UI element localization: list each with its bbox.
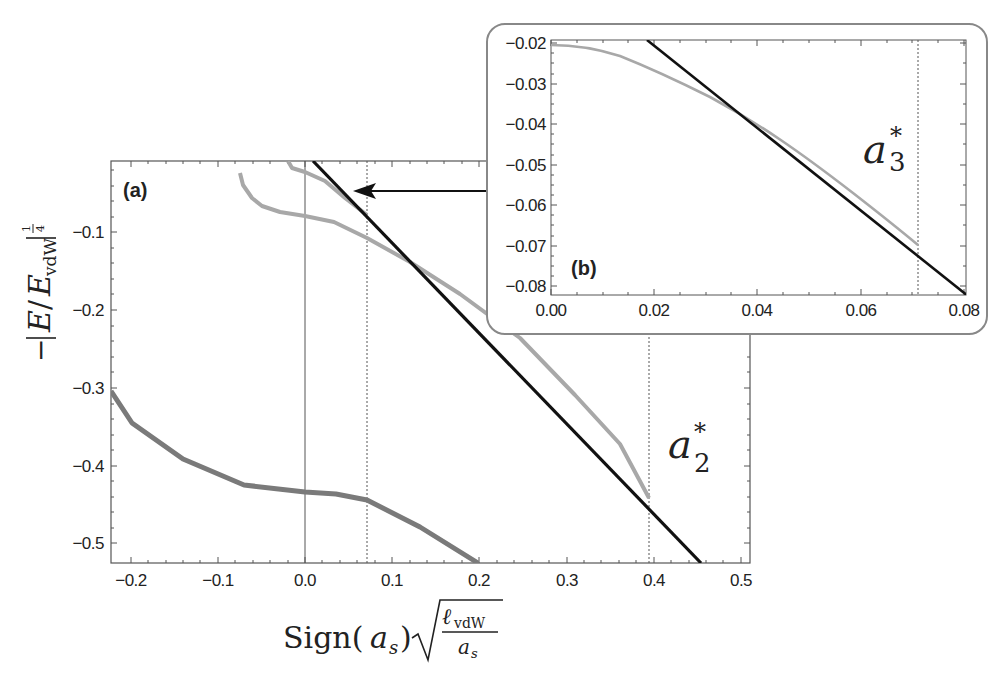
svg-text:−0.3: −0.3 <box>72 379 104 398</box>
y-axis-title: − E / E vdW 1 4 <box>20 224 60 362</box>
a3-star-label: a * 3 <box>863 122 906 177</box>
a2-star-label: a * 2 <box>668 418 711 478</box>
svg-text:vdW: vdW <box>40 238 60 277</box>
svg-text:0.4: 0.4 <box>643 571 665 590</box>
svg-text:4: 4 <box>34 225 47 232</box>
inset-outer-frame <box>487 24 987 334</box>
svg-text:*: * <box>694 418 706 446</box>
figure: (a) a * 2 −0.2 −0.1 0.0 0.1 0.2 0.3 0.4 … <box>0 0 999 679</box>
svg-text:E: E <box>22 274 57 297</box>
svg-text:0.5: 0.5 <box>730 571 752 590</box>
svg-text:−0.03: −0.03 <box>505 75 546 94</box>
svg-text:E: E <box>22 310 57 333</box>
svg-text:−0.1: −0.1 <box>72 223 104 242</box>
svg-text:−0.08: −0.08 <box>505 277 546 296</box>
svg-text:a: a <box>863 126 887 172</box>
svg-text:3: 3 <box>889 147 906 177</box>
svg-text:0.3: 0.3 <box>556 571 578 590</box>
svg-text:0.06: 0.06 <box>845 301 876 320</box>
x-axis-title: Sign( a s ) ℓ vdW a s <box>283 600 503 661</box>
svg-text:0.2: 0.2 <box>468 571 490 590</box>
svg-text:−0.06: −0.06 <box>505 196 546 215</box>
svg-text:a: a <box>458 635 470 659</box>
svg-text:−0.2: −0.2 <box>115 571 147 590</box>
svg-text:−0.1: −0.1 <box>202 571 234 590</box>
zoom-arrow <box>353 183 486 199</box>
svg-text:−0.5: −0.5 <box>72 534 104 553</box>
svg-text:−0.4: −0.4 <box>72 457 104 476</box>
panel-label-a: (a) <box>123 179 147 201</box>
svg-text:−0.04: −0.04 <box>505 115 546 134</box>
svg-text:2: 2 <box>694 448 711 478</box>
svg-text:a: a <box>668 421 692 467</box>
svg-text:−: − <box>24 339 57 362</box>
svg-text:0.0: 0.0 <box>294 571 316 590</box>
svg-text:): ) <box>400 620 412 655</box>
main-x-tick-labels: −0.2 −0.1 0.0 0.1 0.2 0.3 0.4 0.5 <box>115 571 752 590</box>
svg-text:/: / <box>22 299 57 310</box>
state-1-curve <box>111 391 478 563</box>
main-y-tick-labels: −0.1 −0.2 −0.3 −0.4 −0.5 <box>72 223 104 553</box>
svg-text:−0.05: −0.05 <box>505 156 546 175</box>
svg-text:*: * <box>890 122 902 150</box>
svg-text:0.1: 0.1 <box>381 571 403 590</box>
svg-text:Sign(: Sign( <box>283 620 363 655</box>
inset-plot: (b) a * 3 0.00 0.02 0.04 0.06 0.08 −0.02… <box>487 24 987 334</box>
svg-text:1: 1 <box>20 225 33 232</box>
svg-text:0.00: 0.00 <box>535 301 566 320</box>
svg-text:0.02: 0.02 <box>638 301 669 320</box>
svg-text:s: s <box>389 637 398 658</box>
svg-text:−0.2: −0.2 <box>72 301 104 320</box>
svg-text:−0.07: −0.07 <box>505 237 546 256</box>
svg-text:0.08: 0.08 <box>948 301 979 320</box>
svg-text:vdW: vdW <box>453 615 486 631</box>
svg-text:a: a <box>370 620 388 655</box>
svg-text:ℓ: ℓ <box>442 604 452 629</box>
panel-label-b: (b) <box>571 257 597 279</box>
svg-text:−0.02: −0.02 <box>505 34 546 53</box>
svg-text:0.04: 0.04 <box>741 301 772 320</box>
svg-text:s: s <box>471 646 478 661</box>
